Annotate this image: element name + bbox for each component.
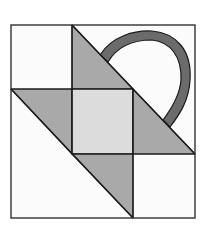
- quilt-block-diagram: Basket quilt block: [0, 0, 212, 230]
- center-square: [72, 89, 133, 154]
